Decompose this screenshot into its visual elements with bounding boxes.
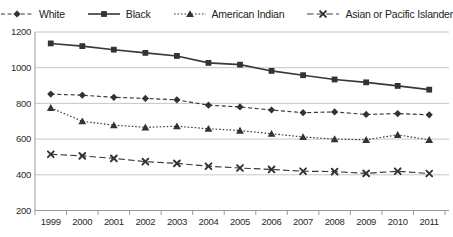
series-line-american-indian bbox=[51, 108, 429, 140]
triangle-marker-icon bbox=[173, 8, 207, 20]
data-point-white bbox=[299, 109, 306, 116]
x-tick-label: 2007 bbox=[293, 216, 313, 227]
x-tick-label: 2010 bbox=[388, 216, 408, 227]
x-tick-label: 2011 bbox=[420, 216, 439, 227]
diamond-marker-icon bbox=[0, 8, 34, 20]
data-point-white bbox=[363, 111, 370, 118]
data-point-black bbox=[79, 43, 85, 49]
data-point-white bbox=[331, 108, 338, 115]
legend-label-white: White bbox=[39, 8, 65, 20]
data-point-black bbox=[300, 72, 306, 78]
data-point-black bbox=[332, 77, 338, 83]
data-point-american-indian bbox=[394, 131, 402, 138]
y-tick-label: 1000 bbox=[11, 62, 31, 73]
x-tick-label: 2002 bbox=[135, 216, 155, 227]
data-point-black bbox=[111, 47, 117, 53]
data-point-black bbox=[395, 83, 401, 89]
data-point-black bbox=[48, 41, 54, 47]
legend-item-asian-pacific-islander: Asian or Pacific Islander bbox=[306, 8, 453, 20]
x-tick-label: 1999 bbox=[41, 216, 61, 227]
data-point-black bbox=[237, 62, 243, 68]
legend-marker-svg bbox=[173, 8, 207, 20]
data-point-black bbox=[206, 60, 212, 66]
data-point-white bbox=[268, 106, 275, 113]
line-chart-figure: White Black American Indian Asian or Pac… bbox=[0, 0, 453, 237]
y-tick-label: 800 bbox=[16, 98, 31, 109]
data-point-white bbox=[142, 95, 149, 102]
data-point-white bbox=[236, 103, 243, 110]
y-tick-label: 600 bbox=[16, 133, 31, 144]
data-point-white bbox=[394, 110, 401, 117]
legend-item-black: Black bbox=[87, 8, 151, 20]
legend-item-american-indian: American Indian bbox=[173, 8, 285, 20]
data-point-white bbox=[79, 92, 86, 99]
data-point-white bbox=[205, 102, 212, 109]
legend-marker-glyph bbox=[101, 11, 107, 17]
y-tick-label: 400 bbox=[16, 169, 31, 180]
legend-label-american-indian: American Indian bbox=[212, 8, 285, 20]
legend-marker-glyph bbox=[13, 10, 20, 17]
data-point-black bbox=[142, 50, 148, 56]
x-tick-label: 2000 bbox=[72, 216, 92, 227]
x-tick-label: 2008 bbox=[325, 216, 345, 227]
data-point-white bbox=[47, 91, 54, 98]
y-tick-label: 200 bbox=[16, 205, 31, 216]
data-point-black bbox=[269, 68, 275, 74]
x-tick-label: 2006 bbox=[262, 216, 282, 227]
data-point-white bbox=[110, 94, 117, 101]
chart-legend: White Black American Indian Asian or Pac… bbox=[0, 0, 453, 24]
square-marker-icon bbox=[87, 8, 121, 20]
legend-marker-svg bbox=[0, 8, 34, 20]
data-point-asian-or-pacific-islander bbox=[426, 171, 432, 177]
x-tick-label: 2004 bbox=[198, 216, 218, 227]
legend-marker-svg bbox=[87, 8, 121, 20]
legend-marker-svg bbox=[306, 8, 340, 20]
data-point-white bbox=[173, 96, 180, 103]
data-point-american-indian bbox=[47, 104, 55, 111]
legend-label-asian-pacific-islander: Asian or Pacific Islander bbox=[345, 8, 453, 20]
x-marker-icon bbox=[306, 8, 340, 20]
legend-label-black: Black bbox=[126, 8, 151, 20]
series-line-asian-or-pacific-islander bbox=[51, 154, 429, 173]
legend-item-white: White bbox=[0, 8, 65, 20]
chart-plot-area: 2004006008001000120019992000200120022003… bbox=[0, 24, 453, 237]
data-point-black bbox=[174, 53, 180, 59]
x-tick-label: 2005 bbox=[230, 216, 250, 227]
y-tick-label: 1200 bbox=[11, 26, 31, 37]
data-point-american-indian bbox=[78, 117, 86, 124]
data-point-black bbox=[426, 87, 432, 93]
x-tick-label: 2009 bbox=[356, 216, 376, 227]
data-point-black bbox=[363, 79, 369, 85]
data-point-white bbox=[426, 111, 433, 118]
x-tick-label: 2003 bbox=[167, 216, 187, 227]
x-tick-label: 2001 bbox=[104, 216, 124, 227]
